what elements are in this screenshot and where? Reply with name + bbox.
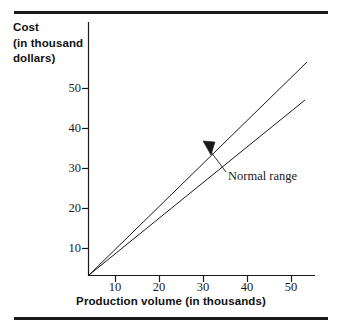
plot-area: [0, 0, 342, 333]
series-line-upper-bound: [89, 62, 307, 275]
annotation-leader-line: [211, 152, 226, 172]
series-line-lower-bound: [89, 100, 305, 275]
annotation-arrowhead-icon: [203, 141, 215, 155]
x-tick-marks: [116, 276, 292, 283]
y-tick-marks: [82, 89, 89, 249]
chart-figure: Cost (in thousand dollars) Production vo…: [0, 0, 342, 333]
